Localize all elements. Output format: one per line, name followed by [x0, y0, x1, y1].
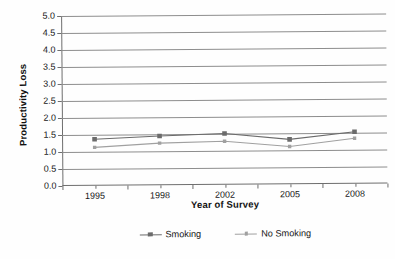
- x-tick-mark-minor: [290, 184, 291, 187]
- x-tick-mark-minor: [95, 186, 96, 189]
- x-tick-mark: [62, 186, 63, 190]
- legend-label: Smoking: [165, 229, 201, 239]
- legend-label: No Smoking: [261, 228, 311, 238]
- legend-swatch-icon: [139, 230, 161, 238]
- x-tick-mark: [387, 184, 388, 188]
- data-point-marker: [223, 140, 226, 143]
- y-tick-label: 4.5: [43, 29, 56, 38]
- x-axis-title: Year of Survey: [63, 198, 388, 212]
- chart-figure: Productivity Loss 0.00.51.01.52.02.53.03…: [0, 0, 395, 259]
- data-point-marker: [287, 137, 292, 142]
- legend-item[interactable]: Smoking: [139, 229, 201, 239]
- y-axis-title: Productivity Loss: [17, 30, 29, 180]
- chart-plate: Productivity Loss 0.00.51.01.52.02.53.03…: [0, 0, 395, 259]
- data-point-marker: [353, 136, 356, 139]
- y-tick-label: 5.0: [43, 12, 56, 21]
- y-tick-label: 3.0: [43, 80, 56, 89]
- data-point-marker: [222, 131, 227, 136]
- x-tick-mark: [322, 184, 323, 188]
- y-tick-label: 1.5: [43, 131, 56, 140]
- data-point-marker: [92, 137, 97, 142]
- plot-area: 0.00.51.01.52.02.53.03.54.04.55.0: [61, 14, 387, 187]
- x-tick-mark-minor: [355, 184, 356, 187]
- x-tick-mark: [257, 185, 258, 189]
- y-tick-label: 0.0: [44, 182, 57, 191]
- y-tick-label: 2.5: [43, 97, 56, 106]
- series-layer: [61, 14, 387, 187]
- data-point-marker: [158, 141, 161, 144]
- legend-swatch-icon: [235, 230, 257, 238]
- x-tick-mark-minor: [225, 185, 226, 188]
- data-point-marker: [352, 129, 357, 134]
- chart-legend: SmokingNo Smoking: [63, 228, 388, 241]
- data-point-marker: [157, 134, 162, 139]
- x-tick-mark-minor: [160, 185, 161, 188]
- y-tick-label: 3.5: [43, 63, 56, 72]
- x-axis-tick-labels: 19951998200220052008: [0, 0, 394, 2]
- x-tick-mark: [192, 185, 193, 189]
- y-tick-label: 4.0: [43, 46, 56, 55]
- x-tick-mark: [127, 186, 128, 190]
- y-tick-label: 2.0: [43, 114, 56, 123]
- y-tick-label: 1.0: [44, 148, 57, 157]
- data-point-marker: [288, 145, 291, 148]
- legend-item[interactable]: No Smoking: [235, 228, 311, 239]
- y-tick-label: 0.5: [44, 165, 57, 174]
- data-point-marker: [93, 146, 96, 149]
- series-no-smoking: [93, 136, 356, 149]
